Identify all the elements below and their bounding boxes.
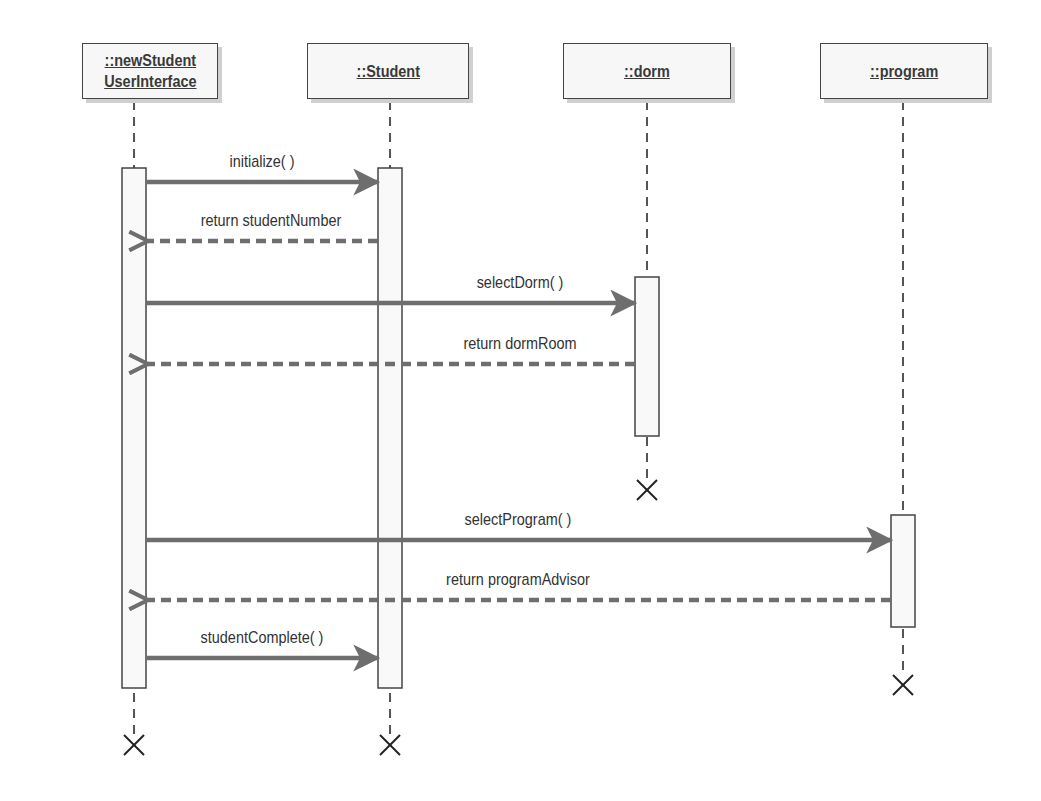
- object-box-program: ::program: [820, 43, 988, 99]
- message-label: return studentNumber: [101, 211, 441, 231]
- destroy-x-icon: [893, 675, 913, 695]
- message-label: studentComplete( ): [92, 628, 432, 648]
- object-box-ui: ::newStudent UserInterface: [82, 43, 218, 99]
- object-label: ::newStudent UserInterface: [104, 50, 196, 92]
- object-box-student: ::Student: [307, 43, 469, 99]
- message-label: initialize( ): [92, 152, 432, 172]
- destroy-x-icon: [124, 735, 144, 755]
- message-label: return dormRoom: [350, 334, 690, 354]
- activation-bar-student: [378, 168, 402, 688]
- activation-bar-dorm: [635, 277, 659, 436]
- message-label: selectProgram( ): [348, 510, 688, 530]
- destroy-x-icon: [380, 735, 400, 755]
- object-label: ::Student: [356, 61, 419, 82]
- sequence-diagram: [0, 0, 1041, 801]
- object-label: ::dorm: [624, 61, 670, 82]
- message-label: return programAdvisor: [348, 570, 688, 590]
- destroy-x-icon: [637, 480, 657, 500]
- activation-bar-ui: [122, 168, 146, 688]
- message-label: selectDorm( ): [350, 273, 690, 293]
- object-label: ::program: [870, 61, 938, 82]
- activation-bar-program: [891, 515, 915, 627]
- object-box-dorm: ::dorm: [563, 43, 731, 99]
